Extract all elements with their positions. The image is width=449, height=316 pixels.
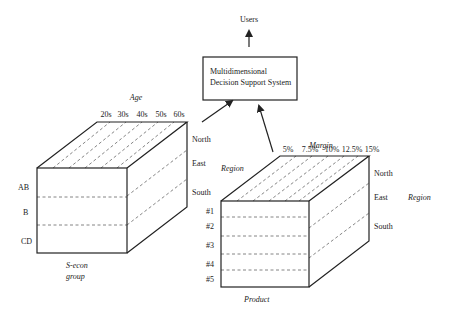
right-cube-region-left-title: Region bbox=[220, 164, 244, 173]
right-cube-region-ticks: North East South bbox=[374, 169, 393, 231]
left-cube-secon-title-line2: group bbox=[66, 272, 85, 281]
region-tick-south: South bbox=[192, 188, 211, 197]
right-data-cube bbox=[221, 156, 369, 287]
right-cube-product-title: Product bbox=[243, 295, 270, 304]
left-data-cube bbox=[37, 122, 187, 253]
right-region-tick-east: East bbox=[374, 193, 389, 202]
system-box-line1: Multidimensional bbox=[210, 67, 268, 76]
arrow-right-cube-to-system bbox=[259, 106, 273, 152]
product-tick-3: #3 bbox=[206, 241, 214, 250]
diagram-canvas: Users Multidimensional Decision Support … bbox=[0, 0, 449, 316]
age-tick-40s: 40s bbox=[136, 110, 147, 119]
arrow-left-cube-to-system bbox=[202, 101, 232, 122]
region-tick-north: North bbox=[192, 135, 211, 144]
secon-tick-b: B bbox=[23, 208, 28, 217]
left-cube-age-ticks: 20s 30s 40s 50s 60s bbox=[100, 110, 184, 119]
margin-tick-15: 15% bbox=[365, 145, 380, 154]
left-cube-region-ticks: North East South bbox=[192, 135, 211, 197]
region-tick-east: East bbox=[192, 159, 207, 168]
users-label: Users bbox=[240, 15, 258, 24]
left-cube-age-title: Age bbox=[129, 93, 143, 102]
right-cube-product-ticks: #1 #2 #3 #4 #5 bbox=[206, 207, 214, 284]
product-tick-5: #5 bbox=[206, 275, 214, 284]
system-box-line2: Decision Support System bbox=[210, 78, 292, 87]
age-tick-30s: 30s bbox=[117, 110, 128, 119]
decision-support-system-box: Multidimensional Decision Support System bbox=[203, 57, 297, 100]
margin-tick-5: 5% bbox=[283, 145, 294, 154]
left-cube-secon-title-line1: S-econ bbox=[66, 261, 88, 270]
secon-tick-cd: CD bbox=[21, 237, 32, 246]
age-tick-60s: 60s bbox=[173, 110, 184, 119]
margin-tick-12-5: 12.5% bbox=[342, 145, 363, 154]
secon-tick-ab: AB bbox=[18, 183, 29, 192]
product-tick-1: #1 bbox=[206, 207, 214, 216]
right-cube-margin-ticks: 5% 7.5% 10% 12.5% 15% bbox=[283, 145, 380, 154]
age-tick-20s: 20s bbox=[100, 110, 111, 119]
age-tick-50s: 50s bbox=[155, 110, 166, 119]
left-cube-secon-ticks: AB B CD bbox=[18, 183, 32, 246]
product-tick-2: #2 bbox=[206, 222, 214, 231]
product-tick-4: #4 bbox=[206, 260, 214, 269]
right-cube-region-side-title: Region bbox=[407, 193, 431, 202]
right-region-tick-north: North bbox=[374, 169, 393, 178]
margin-tick-7-5: 7.5% bbox=[302, 145, 319, 154]
margin-tick-10: 10% bbox=[325, 145, 340, 154]
right-region-tick-south: South bbox=[374, 222, 393, 231]
